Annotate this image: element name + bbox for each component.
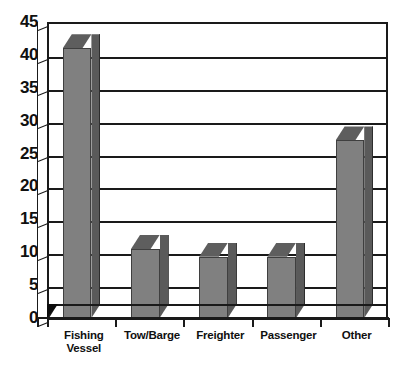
y-axis-depth-tick	[38, 125, 48, 130]
x-axis-tick	[252, 318, 254, 327]
y-axis-tick-label: 35	[4, 79, 38, 96]
y-axis-depth-tick	[38, 158, 48, 163]
y-axis-depth-tick	[38, 256, 48, 261]
bars-layer	[47, 22, 388, 318]
bar-top-face	[63, 34, 92, 48]
x-axis-category-label-line1: Freighter	[186, 329, 254, 342]
y-axis-tick-label: 20	[4, 177, 38, 194]
y-axis-depth-tick	[38, 92, 48, 97]
x-axis-category-label: Tow/Barge	[118, 329, 186, 342]
bar-top-face	[336, 126, 365, 140]
y-axis-tick-label: 40	[4, 46, 38, 63]
y-axis-tick-label: 15	[4, 210, 38, 227]
y-axis-tick-label: 45	[4, 13, 38, 30]
y-axis-depth-tick	[38, 190, 48, 195]
y-axis-tick-label: 5	[4, 276, 38, 293]
y-axis-depth-tick	[38, 289, 48, 294]
x-axis-category-label-line2: Vessel	[50, 342, 118, 355]
y-axis-depth-wall	[38, 22, 47, 318]
bar-top-face	[199, 243, 228, 257]
x-axis-category-label: Passenger	[254, 329, 322, 342]
bar-chart: 454035302520151050 FishingVesselTow/Barg…	[0, 0, 402, 367]
x-axis-tick	[320, 318, 322, 327]
y-axis-labels: 454035302520151050	[2, 0, 38, 367]
bar-front-face	[336, 140, 365, 318]
bar-side-face	[364, 126, 373, 318]
x-axis-tick	[183, 318, 185, 327]
x-axis-tick	[388, 318, 390, 327]
x-axis-category-label-line1: Fishing	[50, 329, 118, 342]
y-axis-tick-label: 0	[4, 309, 38, 326]
x-axis-tick	[115, 318, 117, 327]
y-axis-tick-label: 30	[4, 112, 38, 129]
x-axis-category-label: Other	[323, 329, 391, 342]
bar-top-face	[267, 243, 296, 257]
bar-front-face	[63, 48, 92, 318]
x-axis-category-label-line1: Tow/Barge	[118, 329, 186, 342]
y-axis-tick-label: 10	[4, 243, 38, 260]
bar-side-face	[91, 34, 100, 318]
floor-back-edge	[56, 304, 388, 306]
y-axis-depth-tick	[38, 26, 48, 31]
x-axis-category-label: FishingVessel	[50, 329, 118, 355]
bar-top-face	[131, 235, 160, 249]
x-axis-category-label-line1: Other	[323, 329, 391, 342]
x-axis-labels: FishingVesselTow/BargeFreighterPassenger…	[38, 329, 398, 367]
origin-corner-wedge	[47, 304, 58, 318]
y-axis-tick-label: 25	[4, 145, 38, 162]
y-axis-depth-tick	[38, 223, 48, 228]
x-axis-category-label: Freighter	[186, 329, 254, 342]
y-axis-depth-tick	[38, 322, 48, 327]
x-axis-ticks	[47, 318, 388, 327]
y-axis-depth-tick	[38, 59, 48, 64]
x-axis-tick	[47, 318, 49, 327]
bar	[336, 126, 374, 318]
bar	[63, 34, 101, 318]
x-axis-category-label-line1: Passenger	[254, 329, 322, 342]
